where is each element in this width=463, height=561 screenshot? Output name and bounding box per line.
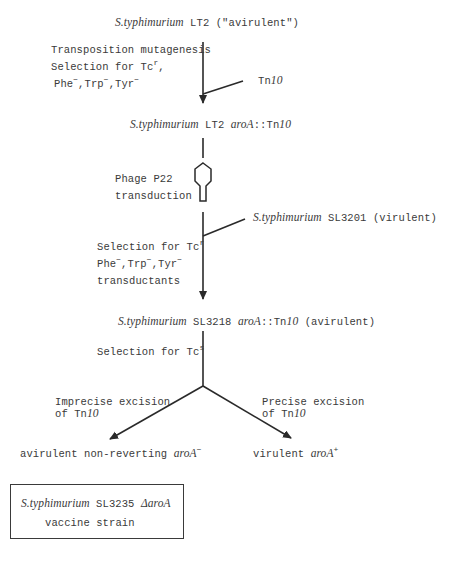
tyr-label: ,Tyr xyxy=(109,78,135,90)
branch-donor xyxy=(203,219,245,236)
branch-tn10 xyxy=(203,81,243,94)
tyr-label: ,Tyr xyxy=(152,258,178,270)
step3-line1: Selection for Tcr xyxy=(97,241,204,253)
gene-name: ΔaroA xyxy=(141,497,171,509)
donor-strain-label: S.typhimurium SL3201 (virulent) xyxy=(253,211,437,224)
step4-label: Selection for Tcs xyxy=(97,346,204,358)
step1-line1: Transposition mutagenesis xyxy=(51,44,211,56)
phe-label: Phe xyxy=(97,258,116,270)
insertion-sep: :: xyxy=(261,316,274,328)
strain-note: (avirulent) xyxy=(305,316,375,328)
plus-sup: + xyxy=(334,445,339,454)
tn-number: 10 xyxy=(87,407,99,419)
tn-prefix: of Tn xyxy=(55,408,87,420)
final-box-line1: S.typhimurium SL3235 ΔaroA xyxy=(21,497,171,510)
tn-number: 10 xyxy=(287,315,299,327)
intermediate2-label: S.typhimurium SL3218 aroA::Tn10 (avirule… xyxy=(118,315,375,328)
step1-line3: Phe−,Trp−,Tyr− xyxy=(54,78,139,90)
start-strain-label: S.typhimurium LT2 ("avirulent") xyxy=(115,16,299,29)
trp-label: ,Trp xyxy=(121,258,147,270)
step2-line1: Phage P22 xyxy=(115,173,173,185)
strain-id: SL3235 xyxy=(96,498,134,510)
gene-name: aroA xyxy=(238,315,261,327)
strain-note: (virulent) xyxy=(373,212,437,224)
final-box-line2: vaccine strain xyxy=(45,517,135,529)
gene-name: aroA xyxy=(231,118,254,130)
tn10-label: Tn10 xyxy=(258,74,283,87)
intermediate1-label: S.typhimurium LT2 aroA::Tn10 xyxy=(130,118,291,131)
minus-sup: − xyxy=(177,255,182,264)
step3-line2: Phe−,Trp−,Tyr− xyxy=(97,258,182,270)
trp-label: ,Trp xyxy=(78,78,104,90)
result-text: avirulent non-reverting xyxy=(20,448,167,460)
comma: , xyxy=(158,61,164,73)
phage-icon xyxy=(195,163,211,201)
gene-name: aroA xyxy=(174,447,197,459)
step3-line3: transductants xyxy=(97,275,180,287)
tn-number: 10 xyxy=(279,118,291,130)
minus-sup: − xyxy=(197,445,202,454)
tn-number: 10 xyxy=(294,407,306,419)
strain-id: LT2 xyxy=(205,119,224,131)
tn-prefix: Tn xyxy=(258,75,271,87)
superscript-r: r xyxy=(199,238,204,247)
right-branch-line2: of Tn10 xyxy=(262,407,306,420)
gene-name: aroA xyxy=(311,447,334,459)
insertion-sep: :: xyxy=(254,119,267,131)
tn-prefix: Tn xyxy=(267,119,280,131)
step3-selection: Selection for Tc xyxy=(97,241,199,253)
right-branch-result: virulent aroA+ xyxy=(253,447,339,460)
superscript-s: s xyxy=(199,343,204,352)
minus-sup: − xyxy=(134,75,139,84)
organism-name: S.typhimurium xyxy=(253,211,322,223)
strain-id: LT2 xyxy=(190,17,209,29)
organism-name: S.typhimurium xyxy=(115,16,184,28)
step4-selection: Selection for Tc xyxy=(97,346,199,358)
left-branch-line2: of Tn10 xyxy=(55,407,99,420)
result-text: virulent xyxy=(253,448,304,460)
phe-label: Phe xyxy=(54,78,73,90)
tn-prefix: Tn xyxy=(274,316,287,328)
organism-name: S.typhimurium xyxy=(118,315,187,327)
strain-id: SL3218 xyxy=(193,316,231,328)
organism-name: S.typhimurium xyxy=(21,497,90,509)
left-branch-result: avirulent non-reverting aroA− xyxy=(20,447,202,460)
step2-line2: transduction xyxy=(115,190,192,202)
step1-selection: Selection for Tc xyxy=(51,61,153,73)
step1-line2: Selection for Tcr, xyxy=(51,61,165,73)
vaccine-strain-box xyxy=(10,484,184,539)
strain-id: SL3201 xyxy=(328,212,366,224)
tn-number: 10 xyxy=(271,74,283,86)
organism-name: S.typhimurium xyxy=(130,118,199,130)
arrow-imprecise xyxy=(110,386,203,439)
tn-prefix: of Tn xyxy=(262,408,294,420)
strain-note: ("avirulent") xyxy=(216,17,299,29)
